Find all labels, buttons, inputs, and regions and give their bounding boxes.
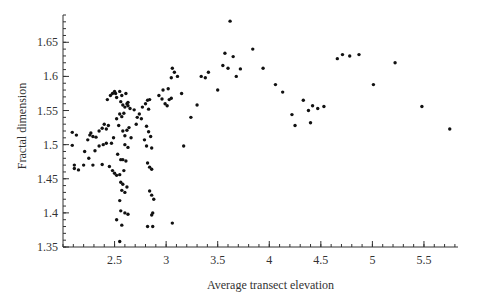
data-point	[123, 191, 126, 194]
data-point	[290, 113, 293, 116]
data-point	[100, 127, 103, 130]
data-point	[141, 105, 144, 108]
data-point	[307, 109, 310, 112]
data-point	[107, 124, 110, 127]
data-point	[135, 122, 138, 125]
data-point	[157, 94, 160, 97]
data-point	[341, 53, 344, 56]
data-point	[171, 221, 174, 224]
y-tick-label: 1.6	[43, 69, 58, 83]
data-point	[83, 150, 86, 153]
data-point	[357, 53, 360, 56]
data-point	[118, 240, 121, 243]
data-point	[189, 116, 192, 119]
y-ticks: 1.351.41.451.51.551.61.65	[37, 15, 69, 254]
data-point	[73, 163, 76, 166]
x-tick-label: 2.5	[107, 253, 122, 267]
y-tick-label: 1.5	[43, 138, 58, 152]
data-point	[118, 112, 121, 115]
data-point	[115, 117, 118, 120]
data-point	[251, 47, 254, 50]
data-point	[120, 189, 123, 192]
scatter-chart: 2.533.544.555.5 1.351.41.451.51.551.61.6…	[0, 0, 479, 300]
data-point	[150, 146, 153, 149]
data-point	[420, 105, 423, 108]
data-point	[110, 142, 113, 145]
data-point	[123, 211, 126, 214]
data-point	[146, 225, 149, 228]
data-point	[119, 209, 122, 212]
data-point	[207, 71, 210, 74]
x-axis-title: Average transect elevation	[207, 278, 334, 292]
data-point	[124, 159, 127, 162]
data-point	[195, 103, 198, 106]
data-point	[119, 100, 122, 103]
data-point	[144, 102, 147, 105]
data-point	[77, 168, 80, 171]
data-point	[126, 104, 129, 107]
data-point	[150, 168, 153, 171]
data-point	[120, 223, 123, 226]
data-point	[150, 193, 153, 196]
data-point	[448, 127, 451, 130]
data-point	[136, 116, 139, 119]
data-point	[316, 107, 319, 110]
data-point	[165, 104, 168, 107]
data-point	[91, 163, 94, 166]
x-tick-label: 4.5	[313, 253, 328, 267]
data-point	[111, 169, 114, 172]
data-point	[116, 153, 119, 156]
data-point	[73, 167, 76, 170]
data-point	[293, 124, 296, 127]
data-point	[126, 101, 129, 104]
data-point	[239, 67, 242, 70]
data-point	[129, 136, 132, 139]
data-point	[121, 129, 124, 132]
data-point	[161, 88, 164, 91]
data-point	[115, 174, 118, 177]
data-point	[226, 67, 229, 70]
data-point	[106, 98, 109, 101]
data-point	[97, 144, 100, 147]
data-point	[128, 107, 131, 110]
data-point	[71, 144, 74, 147]
data-point	[147, 107, 150, 110]
data-point	[147, 130, 150, 133]
data-point	[235, 75, 238, 78]
data-point	[127, 126, 130, 129]
data-point	[145, 144, 148, 147]
data-point	[124, 92, 127, 95]
data-point	[102, 143, 105, 146]
y-tick-label: 1.65	[37, 35, 58, 49]
data-point	[221, 64, 224, 67]
data-point	[120, 94, 123, 97]
data-point	[348, 54, 351, 57]
data-point	[121, 183, 124, 186]
data-point	[86, 138, 89, 141]
y-tick-label: 1.4	[43, 206, 58, 220]
data-point	[105, 127, 108, 130]
data-point	[176, 75, 179, 78]
data-point	[118, 90, 121, 93]
data-point	[122, 112, 125, 115]
data-point	[87, 157, 90, 160]
data-point	[173, 71, 176, 74]
data-point	[372, 83, 375, 86]
y-tick-label: 1.35	[37, 240, 58, 254]
data-point	[94, 135, 97, 138]
data-point	[166, 87, 169, 90]
data-point	[121, 158, 124, 161]
data-point	[108, 165, 111, 168]
y-tick-label: 1.45	[37, 172, 58, 186]
data-point	[302, 99, 305, 102]
data-point	[322, 105, 325, 108]
y-tick-label: 1.55	[37, 104, 58, 118]
data-point	[170, 76, 173, 79]
data-point	[140, 117, 143, 120]
data-point	[336, 57, 339, 60]
data-point	[132, 108, 135, 111]
data-point	[393, 61, 396, 64]
data-point	[143, 138, 146, 141]
data-point	[231, 55, 234, 58]
data-point	[274, 83, 277, 86]
